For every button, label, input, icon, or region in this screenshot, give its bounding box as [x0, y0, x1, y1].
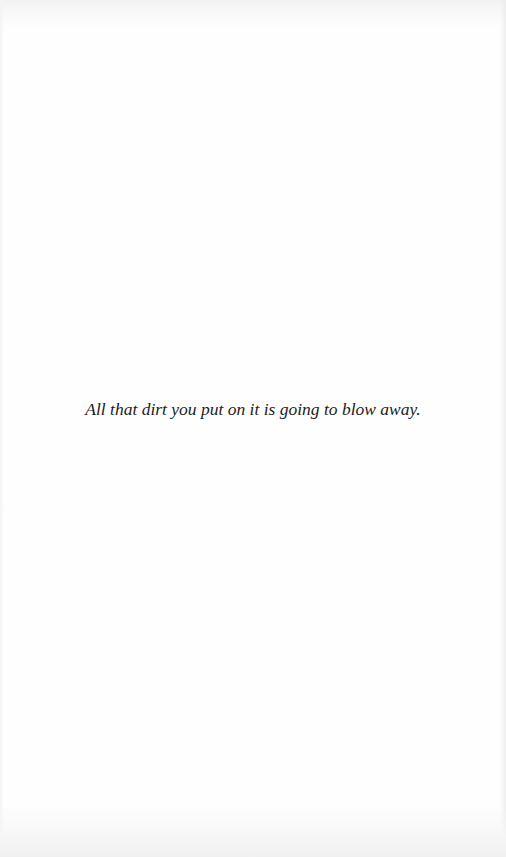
epigraph-text: All that dirt you put on it is going to …	[0, 397, 506, 421]
page-edge-shadow-top	[0, 0, 506, 28]
page-edge-shadow-left	[0, 0, 4, 857]
page-edge-shadow-bottom	[0, 807, 506, 857]
book-page: All that dirt you put on it is going to …	[0, 0, 506, 857]
page-edge-shadow-right	[500, 0, 506, 857]
